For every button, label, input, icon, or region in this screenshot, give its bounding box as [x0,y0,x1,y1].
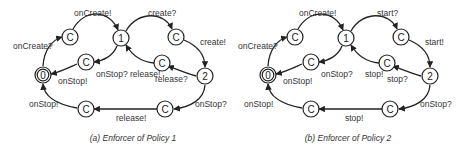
svg-text:C: C [82,104,89,115]
svg-text:0: 0 [265,70,271,81]
label-on-stop-x-top: onStop! [58,76,87,86]
commit-node-c3: C [168,29,184,45]
svg-text:C: C [307,104,314,115]
edge-s1-c2 [94,46,117,62]
svg-text:C: C [383,58,390,69]
svg-text:C: C [172,32,179,43]
label-bottom-x: stop! [345,113,363,123]
svg-text:2: 2 [202,71,208,82]
label-top-right-x: start! [425,37,444,47]
label-on-stop-x-bottom: onStop! [29,99,58,109]
label-on-stop-q-bottom: onStop? [195,99,227,109]
edge-s1-c3 [351,16,397,31]
edge-c4-s1 [351,45,379,63]
panel-b: 0 C 1 C C C 2 C C onCreate? onCreate! on… [238,8,452,143]
svg-text:1: 1 [343,33,349,44]
label-mid-right-x: release! [130,69,160,79]
commit-node-c1: C [62,29,78,45]
state-2-node: 2 [422,68,438,84]
svg-text:C: C [66,32,73,43]
caption-b: (b) Enforcer of Policy 2 [305,133,392,143]
edge-c2-s0 [51,64,77,74]
label-on-create-x: onCreate! [74,8,111,18]
edge-s1-c2 [319,46,342,62]
panel-a: 0 C 1 C C C 2 C C onCreate? onCreate! on… [13,8,227,143]
edge-c2-s0 [276,64,302,74]
svg-text:1: 1 [118,33,124,44]
label-on-stop-q-bottom: onStop? [420,99,452,109]
svg-text:0: 0 [40,70,46,81]
label-on-stop-q-top: onStop? [96,69,128,79]
edge-s1-c3 [126,16,172,31]
commit-node-c2: C [78,54,94,70]
svg-text:C: C [161,104,168,115]
caption-a: (a) Enforcer of Policy 1 [90,133,177,143]
svg-text:C: C [291,32,298,43]
svg-text:C: C [386,104,393,115]
svg-text:C: C [307,57,314,68]
state-0-node: 0 [260,67,276,83]
svg-text:C: C [158,58,165,69]
commit-node-c6: C [78,101,94,117]
edge-c4-s1 [126,45,154,63]
commit-node-c2: C [303,54,319,70]
label-on-stop-x-bottom: onStop! [244,99,273,109]
svg-text:C: C [82,57,89,68]
state-0-node: 0 [35,67,51,83]
state-2-node: 2 [197,68,213,84]
label-bottom-x: release! [116,113,146,123]
label-mid-right-x: stop! [365,69,383,79]
label-on-create-q: onCreate? [238,41,278,51]
label-top-right-x: create! [200,37,226,47]
label-top-right-q: create? [148,8,177,18]
state-1-node: 1 [113,30,129,46]
label-top-right-q: start? [377,8,399,18]
state-1-node: 1 [338,30,354,46]
label-on-create-q: onCreate? [13,41,53,51]
commit-node-c3: C [393,29,409,45]
svg-text:C: C [397,32,404,43]
svg-text:2: 2 [427,71,433,82]
commit-node-c6: C [303,101,319,117]
commit-node-c5: C [382,101,398,117]
label-on-create-x: onCreate! [299,8,336,18]
label-mid-right-q: stop? [387,74,408,84]
commit-node-c1: C [287,29,303,45]
commit-node-c5: C [157,101,173,117]
label-on-stop-q-top: onStop? [321,69,353,79]
label-on-stop-x-top: onStop! [283,76,312,86]
